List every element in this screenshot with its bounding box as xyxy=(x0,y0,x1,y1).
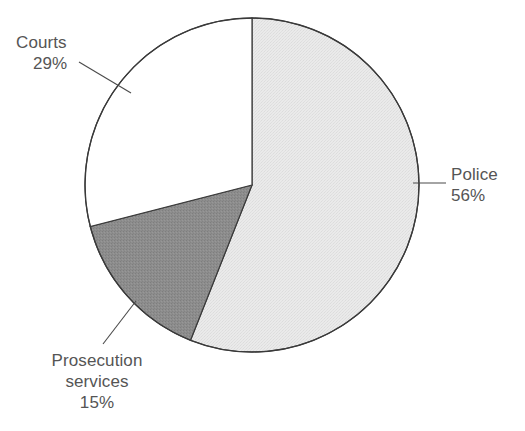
pie-chart-svg: Police 56% Courts 29% Prosecution servic… xyxy=(0,0,525,431)
label-prosecution-name-line1: Prosecution xyxy=(52,351,143,370)
label-courts-name: Courts xyxy=(16,33,67,52)
label-prosecution-value: 15% xyxy=(80,393,114,412)
pie-chart-figure: Police 56% Courts 29% Prosecution servic… xyxy=(0,0,525,431)
label-police-name: Police xyxy=(451,165,498,184)
leader-line-courts xyxy=(79,62,131,93)
label-prosecution-name-line2: services xyxy=(65,372,128,391)
leader-line-prosecution-services xyxy=(103,301,136,344)
label-courts-value: 29% xyxy=(33,54,67,73)
label-police-value: 56% xyxy=(451,186,485,205)
